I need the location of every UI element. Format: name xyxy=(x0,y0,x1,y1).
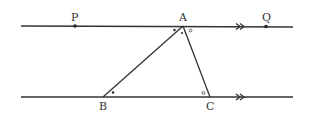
side-ab xyxy=(103,26,183,97)
angle-mark-a-left-dot-icon xyxy=(173,29,175,31)
label-b: B xyxy=(99,100,107,113)
geometry-diagram: P A Q B C xyxy=(0,0,310,116)
point-q xyxy=(264,25,268,29)
angle-mark-a-mid-dot-icon xyxy=(181,32,183,34)
diagram-svg: P A Q B C xyxy=(0,0,310,116)
label-c: C xyxy=(206,100,214,113)
label-a: A xyxy=(178,11,188,24)
label-p: P xyxy=(71,11,79,24)
line-pq xyxy=(21,26,293,27)
angle-mark-b-dot-icon xyxy=(112,91,114,93)
side-ac xyxy=(183,26,210,97)
point-p xyxy=(73,24,77,28)
angle-mark-c-circle-icon xyxy=(202,92,205,95)
angle-mark-a-right-circle-icon xyxy=(189,29,192,32)
label-q: Q xyxy=(262,11,271,24)
